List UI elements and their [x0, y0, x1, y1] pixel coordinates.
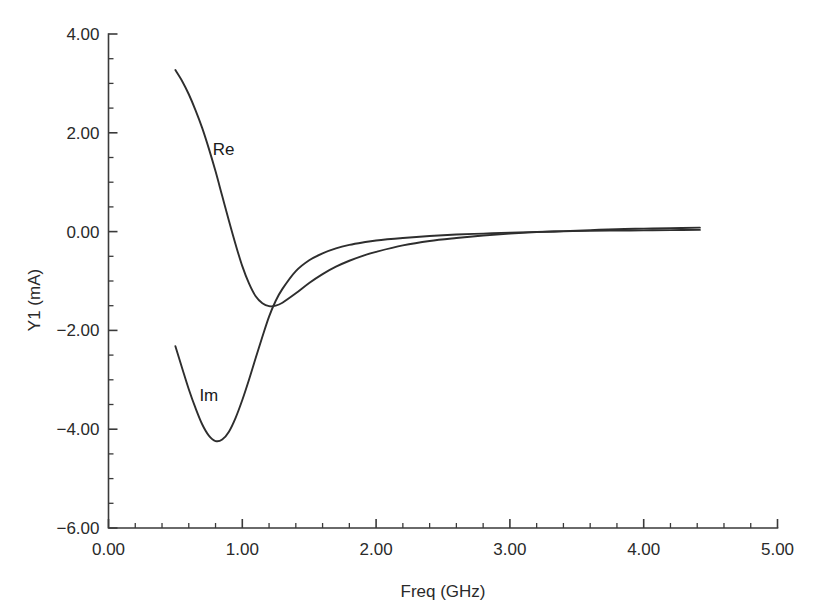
x-tick-label: 3.00	[493, 540, 526, 559]
y-tick-label: 0.00	[66, 223, 99, 242]
data-curve-re	[175, 70, 700, 306]
tick-labels-group: 4.002.000.00−2.00−4.00−6.000.001.002.003…	[56, 25, 794, 559]
x-tick-label: 2.00	[360, 540, 393, 559]
y-tick-label: −6.00	[56, 519, 99, 538]
y-tick-label: −4.00	[56, 420, 99, 439]
series-label-im: Im	[199, 386, 218, 405]
y-tick-label: −2.00	[56, 321, 99, 340]
data-curves-group	[175, 70, 700, 441]
axes-group	[109, 34, 778, 528]
tick-marks-group	[109, 34, 778, 528]
y-tick-label: 4.00	[66, 25, 99, 44]
x-tick-label: 1.00	[226, 540, 259, 559]
y-axis-title: Y1 (mA)	[25, 269, 44, 331]
x-tick-label: 0.00	[92, 540, 125, 559]
clipped-caption-strip	[0, 597, 818, 613]
series-label-re: Re	[213, 140, 235, 159]
x-tick-label: 5.00	[761, 540, 794, 559]
data-curve-im	[175, 230, 700, 441]
y-tick-label: 2.00	[66, 124, 99, 143]
figure-container: 4.002.000.00−2.00−4.00−6.000.001.002.003…	[0, 0, 818, 613]
x-tick-label: 4.00	[627, 540, 660, 559]
axis-spines	[109, 34, 778, 528]
line-chart: 4.002.000.00−2.00−4.00−6.000.001.002.003…	[0, 0, 818, 613]
